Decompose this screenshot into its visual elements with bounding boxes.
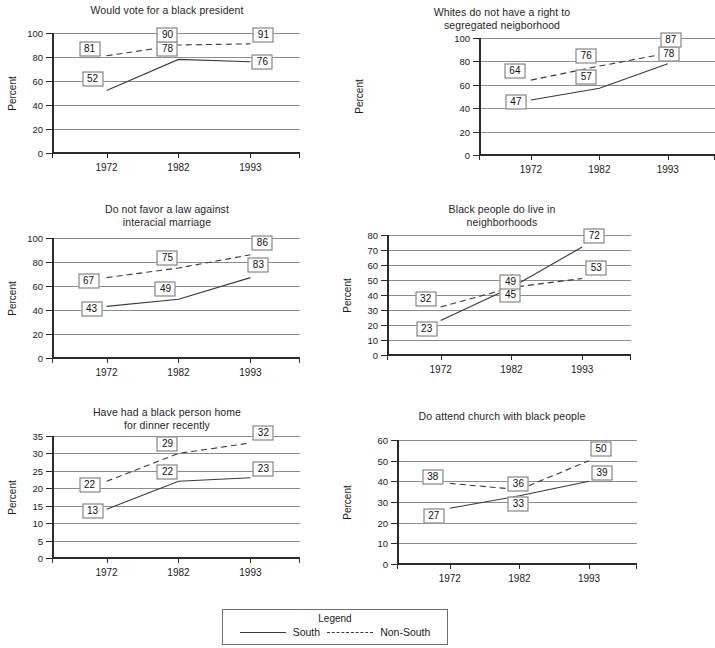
chart-panel-2: Do not favor a law against interacial ma…	[0, 199, 334, 397]
data-label: 87	[660, 33, 681, 48]
y-axis-tick-label: 50	[367, 275, 378, 286]
y-axis-label: Percent	[6, 76, 17, 110]
y-axis-tick-label: 15	[32, 500, 43, 511]
x-axis-tick	[441, 355, 442, 360]
data-label: 90	[157, 28, 178, 43]
data-label: 86	[252, 235, 273, 250]
y-axis-tick-label: 30	[377, 497, 388, 508]
data-label: 52	[82, 71, 103, 86]
series-line-non-south	[107, 255, 251, 278]
x-axis-tick	[582, 355, 583, 360]
x-axis-tick-label: 1972	[95, 567, 117, 578]
data-label: 81	[79, 41, 100, 56]
x-axis-tick-label: 1982	[167, 367, 189, 378]
series-line-south	[107, 478, 251, 509]
y-axis-label: Percent	[341, 485, 352, 519]
x-axis-end-tick	[387, 355, 388, 360]
y-axis-tick-label: 40	[32, 305, 43, 316]
y-axis-tick-label: 60	[377, 435, 388, 446]
chart-panel-1: Whites do not have a right to segregated…	[335, 4, 669, 196]
x-axis-end-tick	[479, 155, 480, 160]
x-axis-tick	[107, 558, 108, 563]
y-axis-tick-label: 0	[373, 350, 378, 361]
x-axis-tick-label: 1982	[508, 573, 530, 584]
y-axis-tick-label: 10	[377, 538, 388, 549]
y-axis-tick-label: 0	[38, 353, 43, 364]
data-label: 13	[82, 504, 103, 519]
x-axis-end-tick	[52, 153, 53, 158]
y-axis-tick-label: 20	[32, 329, 43, 340]
data-label: 49	[155, 282, 176, 297]
data-label: 43	[81, 302, 102, 317]
series-line-non-south	[107, 443, 251, 481]
x-axis-tick-label: 1993	[239, 567, 261, 578]
y-axis-tick-label: 20	[377, 517, 388, 528]
data-label: 32	[253, 425, 274, 440]
y-axis-tick-label: 35	[32, 431, 43, 442]
data-label: 50	[591, 441, 612, 456]
y-axis-tick-label: 0	[383, 559, 388, 570]
x-axis-tick	[668, 155, 669, 160]
legend-entries: South Non-South	[223, 626, 447, 638]
chart-title: Black people do live in neighborhoods	[335, 203, 669, 228]
data-label: 23	[416, 321, 437, 336]
data-label: 64	[504, 64, 525, 79]
legend-line-south	[240, 632, 286, 633]
series-line-south	[107, 59, 251, 90]
y-axis-tick-label: 60	[367, 260, 378, 271]
data-label: 22	[157, 465, 178, 480]
y-axis-label: Percent	[6, 281, 17, 315]
data-label: 76	[576, 49, 597, 64]
y-axis-tick-label: 100	[27, 28, 43, 39]
x-axis-tick	[178, 153, 179, 158]
data-label: 78	[157, 42, 178, 57]
chart-panel-5: Do attend church with black people010203…	[335, 404, 669, 600]
data-label: 38	[422, 470, 443, 485]
x-axis-tick-label: 1982	[500, 364, 522, 375]
y-axis-tick-label: 60	[459, 79, 470, 90]
y-axis-label: Percent	[6, 480, 17, 514]
chart-title: Do not favor a law against interacial ma…	[0, 203, 334, 228]
y-axis-label: Percent	[353, 79, 364, 113]
chart-panel-3: Black people do live in neighborhoods010…	[335, 199, 669, 397]
data-label: 32	[415, 292, 436, 307]
data-label: 36	[508, 476, 529, 491]
plot-area: 0102030405060Percent19721982199327333938…	[397, 440, 637, 564]
data-label: 57	[576, 70, 597, 85]
y-axis-tick-label: 30	[367, 305, 378, 316]
data-label: 23	[253, 461, 274, 476]
data-label: 83	[248, 257, 269, 272]
y-axis-tick-label: 25	[32, 465, 43, 476]
y-axis-tick-label: 20	[32, 124, 43, 135]
y-axis-tick-label: 20	[32, 483, 43, 494]
y-axis-tick-label: 70	[367, 245, 378, 256]
y-axis-tick-label: 80	[32, 257, 43, 268]
plot-area: 020406080100Percent197219821993475778647…	[479, 38, 715, 155]
x-axis-tick-label: 1972	[439, 573, 461, 584]
series-layer	[52, 436, 300, 558]
data-label: 45	[500, 287, 521, 302]
data-label: 33	[508, 496, 529, 511]
y-axis-tick-label: 20	[367, 320, 378, 331]
x-axis-tick	[519, 564, 520, 569]
y-axis-tick-label: 10	[367, 335, 378, 346]
legend: Legend South Non-South	[222, 609, 448, 645]
plot-area: 05101520253035Percent1972198219931322232…	[52, 436, 300, 558]
data-label: 72	[584, 229, 605, 244]
x-axis-tick	[250, 558, 251, 563]
chart-panel-0: Would vote for a black president02040608…	[0, 4, 334, 196]
x-axis-tick-label: 1972	[430, 364, 452, 375]
y-axis-tick-label: 60	[32, 76, 43, 87]
x-axis-tick	[178, 558, 179, 563]
y-axis-tick-label: 80	[32, 52, 43, 63]
series-line-south	[531, 64, 668, 100]
plot-area: 020406080100Percent197219821993527876819…	[52, 33, 300, 153]
x-axis-tick-label: 1993	[578, 573, 600, 584]
x-axis-tick	[531, 155, 532, 160]
x-axis-tick-label: 1982	[167, 567, 189, 578]
data-label: 27	[423, 509, 444, 524]
x-axis-tick-label: 1993	[239, 162, 261, 173]
x-axis-tick	[599, 155, 600, 160]
x-axis-tick-label: 1972	[95, 367, 117, 378]
data-label: 91	[253, 27, 274, 42]
